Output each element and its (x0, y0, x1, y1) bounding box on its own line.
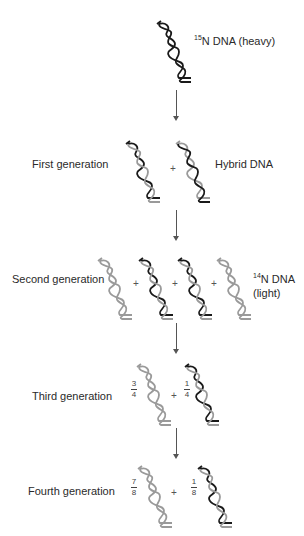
fourth-gen-molecule-hybrid (196, 465, 236, 533)
first-gen-molecule-1 (124, 140, 164, 208)
stage-label-fourth: Fourth generation (28, 485, 115, 497)
dna-helix-light-icon (136, 465, 176, 529)
isotope-superscript: 14 (253, 272, 261, 279)
dna-helix-light-icon (215, 257, 255, 321)
dna-helix-hybrid-icon (124, 140, 164, 204)
arrow-down-icon (173, 323, 179, 354)
dna-helix-hybrid-icon (196, 465, 236, 529)
first-gen-molecule-2 (174, 140, 214, 208)
arrow-down-icon (173, 90, 179, 121)
arrow-down-icon (173, 210, 179, 241)
dna-helix-hybrid-icon (176, 257, 216, 321)
second-gen-molecule-3 (176, 257, 216, 325)
light-dna-annotation: 14N DNA (light) (253, 272, 295, 300)
second-gen-molecule-4 (215, 257, 255, 325)
stage-label-first: First generation (32, 158, 108, 170)
hybrid-dna-annotation: Hybrid DNA (215, 158, 273, 170)
stage-label-third: Third generation (32, 390, 112, 402)
third-gen-molecule-hybrid (183, 363, 223, 431)
third-gen-molecule-light (135, 363, 175, 431)
heavy-dna-annotation: 15N DNA (heavy) (194, 35, 275, 47)
dna-helix-hybrid-icon (174, 140, 214, 204)
dna-helix-hybrid-icon (183, 363, 223, 427)
annotation-text: N DNA (261, 273, 295, 285)
plus-sign: + (171, 390, 177, 401)
plus-sign: + (171, 487, 177, 498)
second-gen-molecule-2 (137, 257, 177, 325)
dna-helix-hybrid-icon (137, 257, 177, 321)
stage-label-second: Second generation (12, 273, 104, 285)
annotation-text-line2: (light) (253, 286, 295, 300)
dna-helix-light-icon (135, 363, 175, 427)
isotope-superscript: 15 (194, 34, 202, 41)
dna-helix-heavy-icon (155, 20, 195, 84)
arrow-down-icon (173, 428, 179, 459)
parent-molecule (155, 20, 195, 88)
second-gen-molecule-1 (96, 257, 136, 325)
annotation-text: N DNA (heavy) (202, 35, 275, 47)
fourth-gen-molecule-light (136, 465, 176, 533)
dna-helix-light-icon (96, 257, 136, 321)
